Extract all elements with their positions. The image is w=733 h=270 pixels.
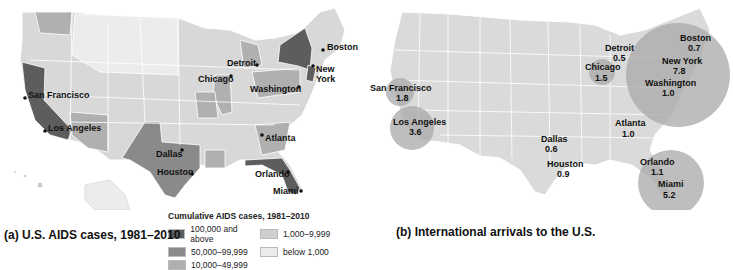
legend-item: below 1,000 [260, 247, 340, 257]
caption-a: (a) U.S. AIDS cases, 1981–2010 [4, 228, 180, 242]
caption-b: (b) International arrivals to the U.S. [396, 225, 595, 239]
label-washington: Washington [645, 78, 696, 88]
value-los-angeles: 3.6 [409, 127, 422, 137]
value-chicago: 1.5 [595, 73, 608, 83]
value-boston: 0.7 [688, 43, 701, 53]
label-miami: Miami [273, 186, 299, 196]
label-miami: Miami [658, 179, 684, 189]
value-washington: 1.0 [662, 88, 675, 98]
label-orlando: Orlando [255, 169, 290, 179]
legend-item: 10,000–49,999 [168, 260, 260, 270]
legend-item: 1,000–9,999 [260, 224, 340, 244]
value-dallas: 0.6 [545, 144, 558, 154]
label-new-york-2: York [316, 74, 336, 84]
aids-cases-map: Boston New York Detroit Chicago Washingt… [0, 0, 370, 210]
label-detroit: Detroit [227, 58, 256, 68]
legend-swatch [168, 260, 186, 270]
legend-swatch [260, 229, 278, 239]
value-san-francisco: 1.8 [396, 93, 409, 103]
international-arrivals-map: San Francisco 1.8 Los Angeles 3.6 Dallas… [370, 0, 733, 210]
legend-swatch [260, 247, 278, 257]
label-los-angeles: Los Angeles [393, 117, 446, 127]
label-new-york-1: New [316, 64, 336, 74]
value-atlanta: 1.0 [622, 129, 635, 139]
legend-swatch [168, 247, 186, 257]
label-washington: Washington [250, 84, 301, 94]
legend-title: Cumulative AIDS cases, 1981–2010 [168, 211, 340, 221]
hawaii [14, 171, 43, 188]
label-boston: Boston [327, 42, 358, 52]
label-san-francisco: San Francisco [28, 90, 90, 100]
legend-item: 100,000 and above [168, 224, 260, 244]
legend: Cumulative AIDS cases, 1981–2010 100,000… [168, 211, 340, 270]
label-detroit: Detroit [605, 43, 634, 53]
label-dallas: Dallas [156, 149, 183, 159]
value-houston: 0.9 [557, 169, 570, 179]
alaska [85, 180, 130, 210]
label-boston: Boston [680, 33, 711, 43]
label-atlanta: Atlanta [615, 118, 646, 128]
value-orlando: 1.1 [651, 167, 664, 177]
label-chicago: Chicago [198, 74, 234, 84]
label-houston: Houston [157, 167, 194, 177]
legend-item: 50,000–99,999 [168, 247, 260, 257]
value-new-york: 7.8 [673, 66, 686, 76]
label-orlando: Orlando [640, 157, 675, 167]
label-atlanta: Atlanta [265, 133, 296, 143]
label-los-angeles: Los Angeles [48, 123, 101, 133]
label-chicago: Chicago [585, 62, 621, 72]
label-new-york: New York [662, 56, 703, 66]
value-detroit: 0.5 [613, 53, 626, 63]
label-dallas: Dallas [541, 134, 568, 144]
value-miami: 5.2 [663, 190, 676, 200]
label-houston: Houston [547, 159, 584, 169]
label-san-francisco: San Francisco [370, 83, 432, 93]
